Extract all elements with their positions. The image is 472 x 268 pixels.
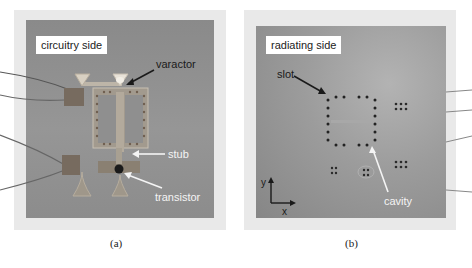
caption-a: (a) [110, 237, 122, 249]
arrow-slot [294, 76, 322, 92]
annotation-stub: stub [168, 148, 189, 160]
coordinate-axes-icon [268, 177, 296, 206]
axis-label-y: y [261, 177, 266, 189]
caption-b: (b) [345, 237, 358, 249]
panel-label-circuitry-side: circuitry side [36, 36, 107, 54]
panel-label-radiating-side: radiating side [266, 36, 341, 54]
annotation-transistor: transistor [155, 191, 200, 203]
panel-a-circuitry-side: circuitry side varactor stub transistor … [0, 0, 236, 268]
panel-b-radiating-side: radiating side slot cavity y x (b) [236, 0, 472, 268]
annotation-varactor: varactor [156, 58, 196, 70]
annotation-cavity: cavity [384, 195, 412, 207]
annotation-slot: slot [277, 68, 294, 80]
arrow-cavity [373, 150, 388, 192]
arrow-transistor [128, 175, 162, 188]
axis-label-x: x [282, 206, 287, 218]
